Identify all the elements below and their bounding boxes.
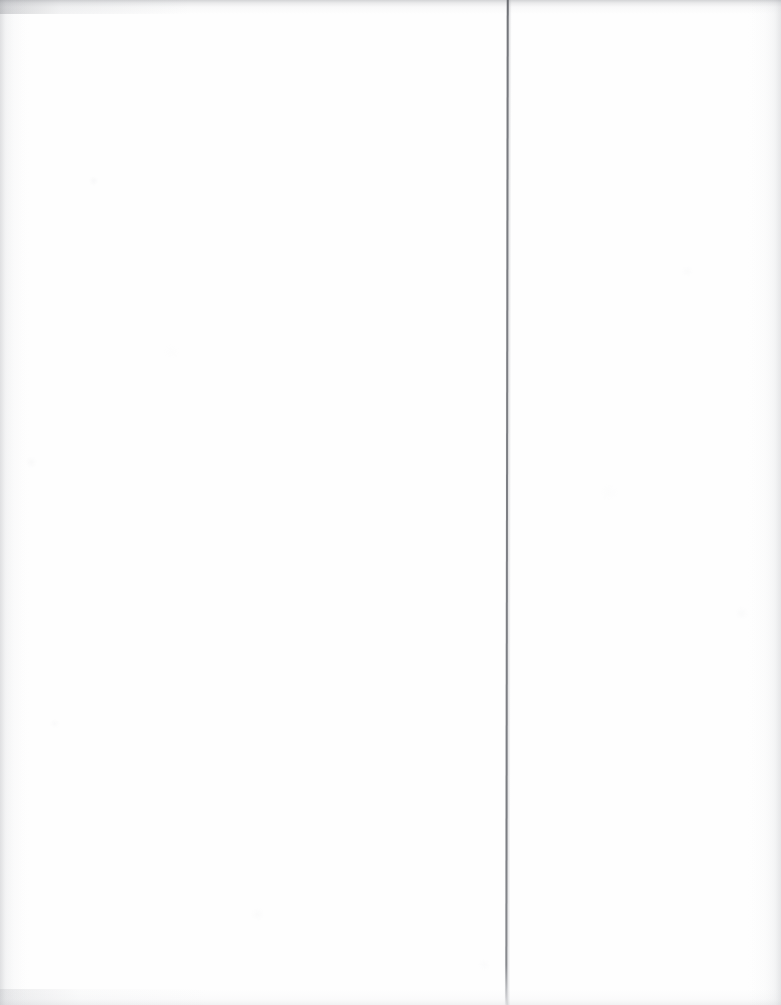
paper-surface	[0, 0, 781, 1005]
scanned-page	[0, 0, 781, 1005]
